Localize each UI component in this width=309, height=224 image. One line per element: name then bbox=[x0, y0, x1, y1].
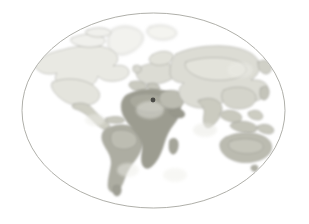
world-map-figure bbox=[0, 0, 309, 224]
world-map-canvas bbox=[0, 0, 309, 224]
location-marker-dot[interactable] bbox=[151, 98, 156, 103]
